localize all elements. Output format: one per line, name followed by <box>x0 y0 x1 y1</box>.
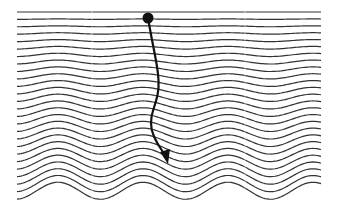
start-ball-marker <box>143 13 154 24</box>
wave-trajectory-diagram <box>0 0 338 204</box>
